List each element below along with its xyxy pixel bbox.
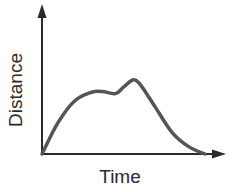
chart-canvas: Time Distance <box>0 0 234 192</box>
y-axis-label: Distance <box>5 53 26 127</box>
x-axis-label: Time <box>99 166 141 187</box>
x-axis-arrow-icon <box>212 150 226 159</box>
y-axis-arrow-icon <box>38 4 47 18</box>
distance-time-chart: Time Distance <box>0 0 234 192</box>
distance-curve <box>42 80 205 154</box>
